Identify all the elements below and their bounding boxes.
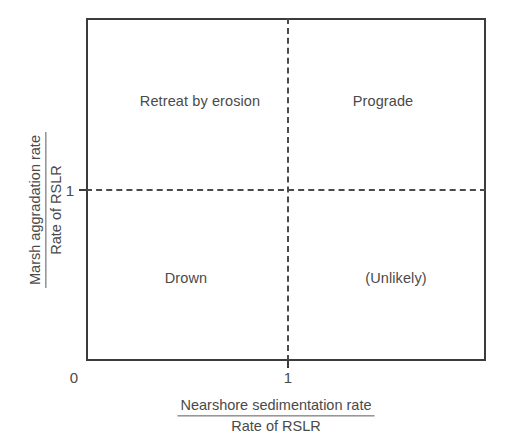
y-axis-tick-label-1: 1	[66, 182, 74, 199]
x-axis-tick-label-0: 0	[70, 369, 78, 386]
quadrant-label-bottom-right: (Unlikely)	[365, 271, 426, 287]
y-axis-title-fraction: Marsh aggradation rate Rate of RSLR	[26, 132, 65, 288]
x-axis-tick-label-1: 1	[284, 369, 292, 386]
x-axis-title-numerator: Nearshore sedimentation rate	[177, 396, 374, 416]
quadrant-label-top-right: Prograde	[353, 94, 413, 110]
quadrant-label-top-left: Retreat by erosion	[140, 94, 260, 110]
vertical-threshold-dashed-line	[287, 18, 289, 361]
x-axis-title: Nearshore sedimentation rate Rate of RSL…	[177, 396, 374, 435]
marsh-fate-quadrant-diagram: Retreat by erosion Prograde Drown (Unlik…	[0, 0, 507, 445]
horizontal-threshold-dashed-line	[86, 189, 486, 191]
y-axis-title: Marsh aggradation rate Rate of RSLR	[26, 132, 65, 288]
quadrant-label-bottom-left: Drown	[165, 271, 207, 287]
y-axis-tick-mark-1	[79, 189, 87, 191]
x-axis-title-fraction: Nearshore sedimentation rate Rate of RSL…	[177, 396, 374, 435]
x-axis-title-denominator: Rate of RSLR	[177, 417, 374, 436]
x-axis-tick-mark-1	[287, 360, 289, 368]
y-axis-title-denominator: Rate of RSLR	[47, 132, 66, 288]
y-axis-title-numerator: Marsh aggradation rate	[26, 132, 46, 288]
